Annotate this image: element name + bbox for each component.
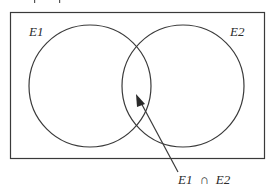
cut-off-text-fragments	[34, 0, 60, 3]
intersection-operator: ∩	[199, 172, 208, 187]
universe-rectangle	[11, 13, 265, 159]
intersection-label: E1 ∩ E2	[177, 170, 231, 187]
set-e2-circle	[122, 25, 244, 147]
intersection-arrow-icon	[136, 94, 178, 172]
set-e1-circle	[29, 25, 151, 147]
intersection-right-set: E2	[215, 172, 231, 187]
intersection-left-set: E1	[177, 172, 192, 187]
set-e2-label: E2	[229, 24, 245, 39]
set-e1-label: E1	[28, 24, 43, 39]
venn-diagram: E1 E2 E1 ∩ E2	[0, 0, 271, 190]
